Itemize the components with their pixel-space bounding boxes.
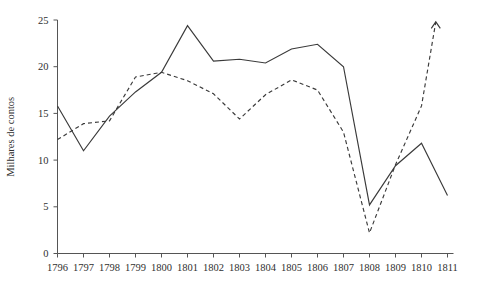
y-tick-label: 0 — [43, 248, 48, 259]
x-tick-label: 1809 — [385, 262, 406, 273]
y-axis-title: Milhares de contos — [5, 97, 16, 177]
x-tick-label: 1806 — [307, 262, 328, 273]
x-axis-ticks: 1796179717981799180018011802180318041805… — [47, 254, 458, 273]
x-tick-label: 1811 — [437, 262, 458, 273]
axes-group — [58, 20, 454, 254]
chart-figure: 0510152025 17961797179817991800180118021… — [0, 0, 491, 282]
solid-series-line — [58, 26, 448, 205]
x-tick-label: 1800 — [151, 262, 172, 273]
x-tick-label: 1805 — [281, 262, 302, 273]
y-tick-label: 20 — [38, 61, 49, 72]
x-tick-label: 1802 — [203, 262, 224, 273]
dashed-series-line — [58, 22, 436, 233]
y-tick-label: 5 — [43, 201, 48, 212]
x-tick-label: 1810 — [411, 262, 432, 273]
x-tick-label: 1799 — [125, 262, 146, 273]
y-tick-label: 15 — [38, 108, 49, 119]
x-tick-label: 1798 — [99, 262, 120, 273]
y-tick-label: 10 — [38, 155, 49, 166]
x-tick-label: 1803 — [229, 262, 250, 273]
x-tick-label: 1807 — [333, 262, 354, 273]
y-axis-ticks: 0510152025 — [38, 15, 58, 260]
x-tick-label: 1797 — [73, 262, 94, 273]
y-tick-label: 25 — [38, 15, 49, 26]
line-chart: 0510152025 17961797179817991800180118021… — [0, 0, 491, 282]
x-tick-label: 1808 — [359, 262, 380, 273]
x-tick-label: 1796 — [47, 262, 68, 273]
x-tick-label: 1804 — [255, 262, 277, 273]
series-layer — [58, 22, 448, 233]
x-tick-label: 1801 — [177, 262, 198, 273]
